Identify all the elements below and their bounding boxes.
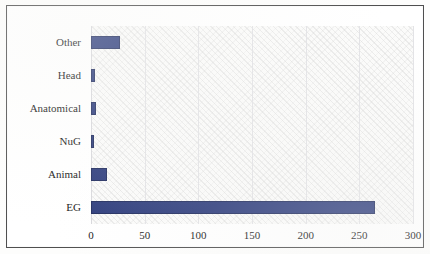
bar-head xyxy=(91,69,95,82)
y-tick-label-other: Other xyxy=(5,36,81,49)
x-tick-label-300: 300 xyxy=(405,228,422,242)
gridline-300 xyxy=(413,26,414,224)
y-tick-label-animal: Animal xyxy=(5,168,81,181)
x-tick-label-250: 250 xyxy=(351,228,368,242)
gridline-100 xyxy=(198,26,199,224)
plot-area xyxy=(91,26,413,224)
y-tick-label-anatomical: Anatomical xyxy=(5,102,81,115)
y-tick-label-nug: NuG xyxy=(5,135,81,148)
chart-figure: OtherHeadAnatomicalNuGAnimalEG 050100150… xyxy=(0,0,430,254)
bar-other xyxy=(91,36,120,49)
gridline-200 xyxy=(306,26,307,224)
bar-eg xyxy=(91,201,375,214)
gridline-50 xyxy=(145,26,146,224)
chart-frame: OtherHeadAnatomicalNuGAnimalEG 050100150… xyxy=(6,5,424,248)
gridline-0 xyxy=(91,26,92,224)
bar-nug xyxy=(91,135,94,148)
bar-anatomical xyxy=(91,102,96,115)
x-tick-label-0: 0 xyxy=(88,228,94,242)
x-tick-label-150: 150 xyxy=(244,228,261,242)
gridline-250 xyxy=(359,26,360,224)
x-tick-label-200: 200 xyxy=(297,228,314,242)
x-tick-label-50: 50 xyxy=(139,228,150,242)
y-tick-label-eg: EG xyxy=(5,201,81,214)
y-tick-label-head: Head xyxy=(5,69,81,82)
y-axis-labels: OtherHeadAnatomicalNuGAnimalEG xyxy=(7,26,85,224)
gridline-150 xyxy=(252,26,253,224)
bar-animal xyxy=(91,168,107,181)
x-axis-labels: 050100150200250300 xyxy=(91,228,413,244)
x-tick-label-100: 100 xyxy=(190,228,207,242)
